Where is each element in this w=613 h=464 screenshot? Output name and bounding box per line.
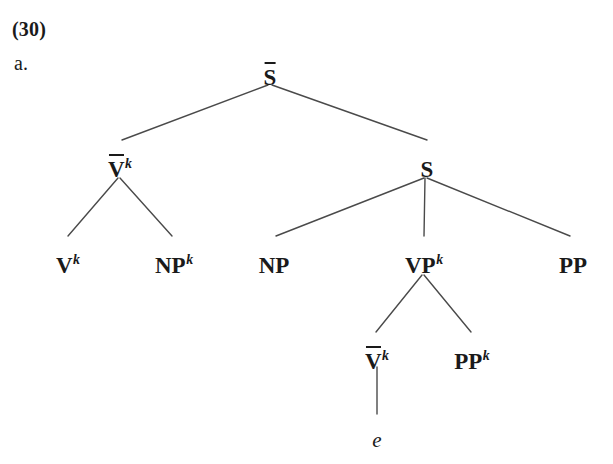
tree-node-pp2: PPk — [454, 350, 490, 373]
node-label: VP — [405, 253, 436, 278]
node-label: PP — [559, 253, 587, 278]
node-index-superscript: k — [436, 252, 443, 267]
tree-edge-vp1-to-pp2 — [424, 275, 471, 332]
tree-node-np1: NPk — [155, 254, 193, 277]
node-index-superscript: k — [186, 252, 193, 267]
node-label: S — [264, 66, 277, 89]
tree-branches — [0, 0, 613, 464]
tree-edge-root-to-s1 — [272, 85, 427, 140]
tree-node-vbar1: Vk — [108, 158, 132, 181]
tree-node-np2: NP — [259, 254, 290, 277]
node-label: NP — [155, 253, 186, 278]
syntax-tree-figure: (30) a. SVkSVkNPkNPVPkPPVkPPke — [0, 0, 613, 464]
tree-node-empty-category: e — [372, 430, 381, 451]
node-label: S — [421, 157, 434, 182]
node-label: V — [108, 158, 125, 181]
tree-edge-root-to-vbar1 — [122, 85, 268, 140]
node-label: NP — [259, 253, 290, 278]
node-label: PP — [454, 349, 482, 374]
node-label: V — [365, 350, 382, 373]
tree-edge-vbar1-to-v1 — [68, 178, 118, 236]
tree-node-v1: Vk — [56, 254, 80, 277]
tree-node-vp1: VPk — [405, 254, 443, 277]
tree-node-s1: S — [421, 158, 434, 181]
example-sub-label: a. — [14, 52, 28, 75]
node-index-superscript: k — [483, 348, 490, 363]
tree-node-vbar2: Vk — [365, 350, 389, 373]
tree-edge-s1-to-pp1 — [427, 178, 570, 236]
tree-edge-vbar1-to-np1 — [120, 178, 172, 236]
node-index-superscript: k — [382, 348, 389, 363]
tree-edge-s1-to-np2 — [276, 178, 424, 236]
tree-edge-vp1-to-vbar2 — [376, 275, 422, 332]
node-index-superscript: k — [73, 252, 80, 267]
node-label: V — [56, 253, 73, 278]
tree-node-root: S — [264, 66, 277, 89]
tree-edge-s1-to-vp1 — [424, 178, 425, 236]
node-index-superscript: k — [125, 156, 132, 171]
example-number: (30) — [12, 18, 46, 41]
tree-node-pp1: PP — [559, 254, 587, 277]
